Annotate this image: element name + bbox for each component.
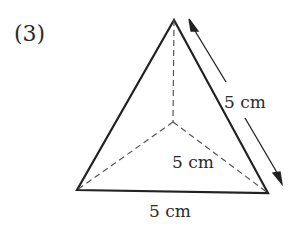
- tetrahedron-diagram: (3) 5 cm 5 cm 5 cm: [0, 0, 298, 226]
- base-edge-label: 5 cm: [149, 201, 191, 221]
- slant-edge-label: 5 cm: [224, 92, 266, 112]
- inner-edge-label: 5 cm: [172, 152, 214, 172]
- problem-number: (3): [14, 21, 45, 46]
